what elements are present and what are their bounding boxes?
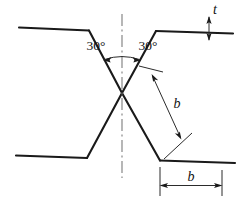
upper-right-top-edge (156, 31, 233, 34)
diagonal-b-dimension-group: b (139, 66, 192, 159)
lower-left-bevel-face (87, 93, 122, 158)
lower-right-bevel-face (122, 93, 160, 161)
angle-label-right: 30° (139, 38, 158, 53)
diagonal-b-extension-lower (164, 133, 192, 159)
thickness-label: t (213, 2, 218, 17)
thickness-dimension-group: t (206, 2, 218, 41)
angle-label-left: 30° (87, 38, 106, 53)
diagonal-b-label: b (174, 96, 181, 111)
upper-left-top-edge (19, 28, 89, 31)
weld-groove-diagram: 30° 30° t b (0, 0, 241, 204)
lower-left-bottom-edge (16, 156, 87, 159)
horizontal-b-label: b (188, 169, 195, 184)
diagonal-b-extension-upper (139, 66, 163, 72)
workpiece-outline (16, 28, 235, 164)
horizontal-b-dimension-group: b (160, 167, 223, 196)
technical-drawing-canvas: 30° 30° t b (0, 0, 241, 204)
lower-right-bottom-edge (160, 161, 235, 164)
